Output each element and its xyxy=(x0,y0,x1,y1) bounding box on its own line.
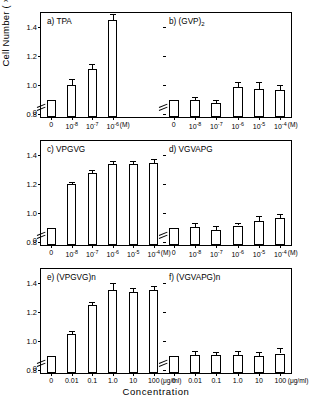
y-tick-d-0 xyxy=(163,155,166,156)
x-tick-exponent-d-4: -5 xyxy=(261,249,266,255)
x-tick-d-0 xyxy=(174,245,175,248)
x-tick-e-5 xyxy=(154,373,155,376)
x-tick-b-4 xyxy=(259,117,260,120)
figure-canvas: Cell Number ( ×105/Dish) Concentration a… xyxy=(0,0,312,404)
y-tick-e-1 xyxy=(38,312,41,313)
y-tick-b-1 xyxy=(163,56,166,57)
x-tick-label-c-0: 0 xyxy=(49,249,53,256)
x-tick-d-1 xyxy=(195,245,196,248)
error-cap-b-5 xyxy=(277,85,283,86)
bar-c-4 xyxy=(129,164,138,245)
x-axis-unit-a: (M) xyxy=(120,121,130,128)
x-tick-base-a-2: 10 xyxy=(86,123,94,130)
bar-b-4 xyxy=(254,89,264,117)
bar-b-1 xyxy=(190,100,200,117)
axis-break-c xyxy=(37,235,46,242)
x-tick-c-3 xyxy=(113,245,114,248)
x-tick-label-e-4: 10 xyxy=(129,377,137,384)
panel-e: e) (VPGVG)n1.41.21.00.8000.010.11.010100… xyxy=(40,268,165,374)
x-tick-base-c-1: 10 xyxy=(65,251,73,258)
plot-area-c: 1.41.21.00.80010-810-710-610-510-4(M) xyxy=(41,141,164,245)
x-tick-c-2 xyxy=(92,245,93,248)
x-tick-d-5 xyxy=(280,245,281,248)
x-tick-label-e-3: 1.0 xyxy=(108,377,118,384)
error-cap-c-4 xyxy=(130,161,136,162)
bar-b-0 xyxy=(169,100,179,117)
x-tick-exponent-d-3: -6 xyxy=(239,249,244,255)
x-tick-c-1 xyxy=(72,245,73,248)
error-cap-e-5 xyxy=(151,286,157,287)
x-tick-label-f-5: 100 xyxy=(274,377,286,384)
y-tick-f-1 xyxy=(163,312,166,313)
x-tick-base-c-2: 10 xyxy=(86,251,94,258)
bar-c-5 xyxy=(149,163,158,245)
y-zero-label-e: 0 xyxy=(33,364,37,373)
x-tick-e-0 xyxy=(51,373,52,376)
x-axis-unit-c: (M) xyxy=(161,249,171,256)
x-tick-base-b-5: 10 xyxy=(274,123,282,130)
x-tick-label-b-5: 10-4 xyxy=(274,121,287,130)
x-tick-a-1 xyxy=(72,117,73,120)
bar-f-0 xyxy=(169,356,179,373)
x-tick-e-2 xyxy=(92,373,93,376)
error-cap-f-5 xyxy=(277,348,283,349)
error-cap-f-3 xyxy=(235,351,241,352)
y-tick-b-3 xyxy=(163,114,166,115)
x-tick-label-d-5: 10-4 xyxy=(274,249,287,258)
error-cap-d-5 xyxy=(277,214,283,215)
bar-d-3 xyxy=(233,226,243,246)
y-tick-e-0 xyxy=(38,283,41,284)
x-tick-exponent-d-5: -4 xyxy=(282,249,287,255)
plot-area-b: 010-810-710-610-510-4(M) xyxy=(163,13,291,117)
x-tick-base-a-1: 10 xyxy=(65,123,73,130)
bar-f-5 xyxy=(275,354,285,374)
x-tick-exponent-c-5: -4 xyxy=(155,249,160,255)
panel-f: f) (VGVAPG)n00.010.11.010100(μg/ml) xyxy=(163,268,292,374)
x-tick-e-3 xyxy=(113,373,114,376)
x-tick-exponent-c-2: -7 xyxy=(94,249,99,255)
error-cap-f-4 xyxy=(256,352,262,353)
error-cap-d-4 xyxy=(256,216,262,217)
y-tick-label-e-2: 1.0 xyxy=(27,337,37,346)
x-tick-base-c-4: 10 xyxy=(127,251,135,258)
x-tick-label-d-0: 0 xyxy=(172,249,176,256)
plot-area-d: 010-810-710-610-510-4(M) xyxy=(163,141,291,245)
x-tick-d-4 xyxy=(259,245,260,248)
x-tick-b-2 xyxy=(216,117,217,120)
x-tick-label-a-0: 0 xyxy=(49,121,53,128)
x-tick-exponent-a-1: -8 xyxy=(73,121,78,127)
error-cap-e-2 xyxy=(89,302,95,303)
x-tick-label-c-1: 10-8 xyxy=(65,249,78,258)
x-tick-exponent-b-1: -8 xyxy=(197,121,202,127)
error-cap-b-1 xyxy=(192,97,198,98)
x-tick-label-f-0: 0 xyxy=(172,377,176,384)
x-tick-label-f-1: 0.01 xyxy=(188,377,202,384)
bar-a-0 xyxy=(47,100,56,117)
x-tick-f-5 xyxy=(280,373,281,376)
y-axis-label: Cell Number ( ×105/Dish) xyxy=(0,0,11,96)
y-tick-f-3 xyxy=(163,370,166,371)
x-tick-label-e-5: 100 xyxy=(148,377,160,384)
plot-area-f: 00.010.11.010100(μg/ml) xyxy=(163,269,291,373)
x-tick-exponent-d-1: -8 xyxy=(197,249,202,255)
y-tick-d-2 xyxy=(163,213,166,214)
x-tick-label-e-2: 0.1 xyxy=(87,377,97,384)
error-cap-b-4 xyxy=(256,82,262,83)
bar-a-3 xyxy=(108,20,117,117)
x-tick-label-d-3: 10-6 xyxy=(231,249,244,258)
x-tick-exponent-b-4: -5 xyxy=(261,121,266,127)
x-tick-exponent-c-4: -5 xyxy=(135,249,140,255)
x-tick-f-3 xyxy=(238,373,239,376)
x-tick-label-e-1: 0.01 xyxy=(65,377,79,384)
x-tick-exponent-c-3: -6 xyxy=(114,249,119,255)
x-tick-c-5 xyxy=(154,245,155,248)
x-tick-base-b-4: 10 xyxy=(253,123,261,130)
x-tick-b-3 xyxy=(238,117,239,120)
x-axis-unit-f: (μg/ml) xyxy=(288,377,309,384)
x-tick-label-b-4: 10-5 xyxy=(253,121,266,130)
bar-e-3 xyxy=(108,290,117,373)
error-cap-d-1 xyxy=(192,223,198,224)
y-tick-b-0 xyxy=(163,27,166,28)
x-tick-e-1 xyxy=(72,373,73,376)
x-tick-label-b-1: 10-8 xyxy=(189,121,202,130)
